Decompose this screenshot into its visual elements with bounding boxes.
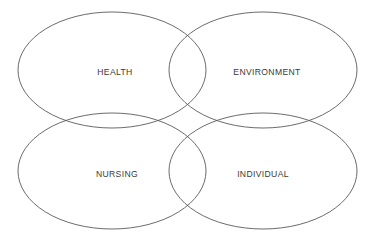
label-health: HEALTH	[97, 67, 132, 77]
label-environment: ENVIRONMENT	[233, 67, 300, 77]
venn-diagram-canvas	[0, 0, 374, 241]
label-nursing: NURSING	[96, 169, 138, 179]
venn-diagram: HEALTH ENVIRONMENT NURSING INDIVIDUAL	[0, 0, 374, 241]
label-individual: INDIVIDUAL	[237, 169, 289, 179]
